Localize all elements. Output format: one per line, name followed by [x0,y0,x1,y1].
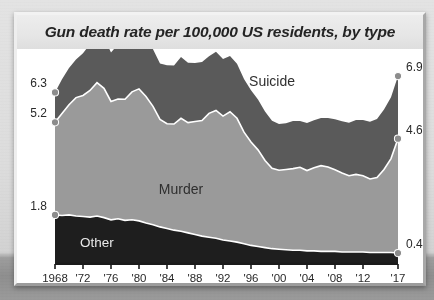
chart-title-band: Gun death rate per 100,000 US residents,… [17,15,423,50]
x-tick-label: '72 [76,272,91,283]
endpoint-dot-left [51,119,58,126]
x-axis [55,264,398,269]
x-tick-label: '96 [244,272,259,283]
endpoint-dot-left [51,89,58,96]
chart-title: Gun death rate per 100,000 US residents,… [45,23,395,41]
x-tick-label: '12 [356,272,371,283]
x-axis-tick-labels: 1968'72'76'80'84'88'92'96'00'04'08'12'17 [42,272,405,283]
x-tick-label: '00 [272,272,287,283]
endpoint-label-left: 6.3 [30,76,47,90]
series-label-murder: Murder [159,181,204,197]
series-label-suicide: Suicide [249,73,295,89]
chart-card: Gun death rate per 100,000 US residents,… [14,12,426,286]
endpoint-label-right: 0.4 [406,237,423,251]
x-tick-label: 1968 [42,272,68,283]
endpoint-label-right: 6.9 [406,60,423,74]
series-label-other: Other [80,235,114,250]
x-tick-label: '17 [391,272,406,283]
x-tick-label: '92 [216,272,231,283]
plot-area: 1968'72'76'80'84'88'92'96'00'04'08'12'17… [17,49,423,283]
endpoint-dot-right [394,249,401,256]
x-tick-label: '04 [300,272,316,283]
x-tick-label: '08 [328,272,343,283]
x-tick-label: '84 [160,272,176,283]
endpoint-dot-left [51,211,58,218]
endpoint-label-left: 5.2 [30,106,47,120]
endpoint-dot-right [394,72,401,79]
endpoint-dot-right [394,135,401,142]
x-tick-label: '80 [132,272,147,283]
endpoint-label-left: 1.8 [30,199,47,213]
chart-screenshot: Gun death rate per 100,000 US residents,… [0,0,434,300]
x-tick-label: '76 [104,272,119,283]
endpoint-label-right: 4.6 [406,123,423,137]
stacked-area-chart: 1968'72'76'80'84'88'92'96'00'04'08'12'17… [17,49,423,283]
area-bands [55,49,398,264]
x-tick-label: '88 [188,272,203,283]
